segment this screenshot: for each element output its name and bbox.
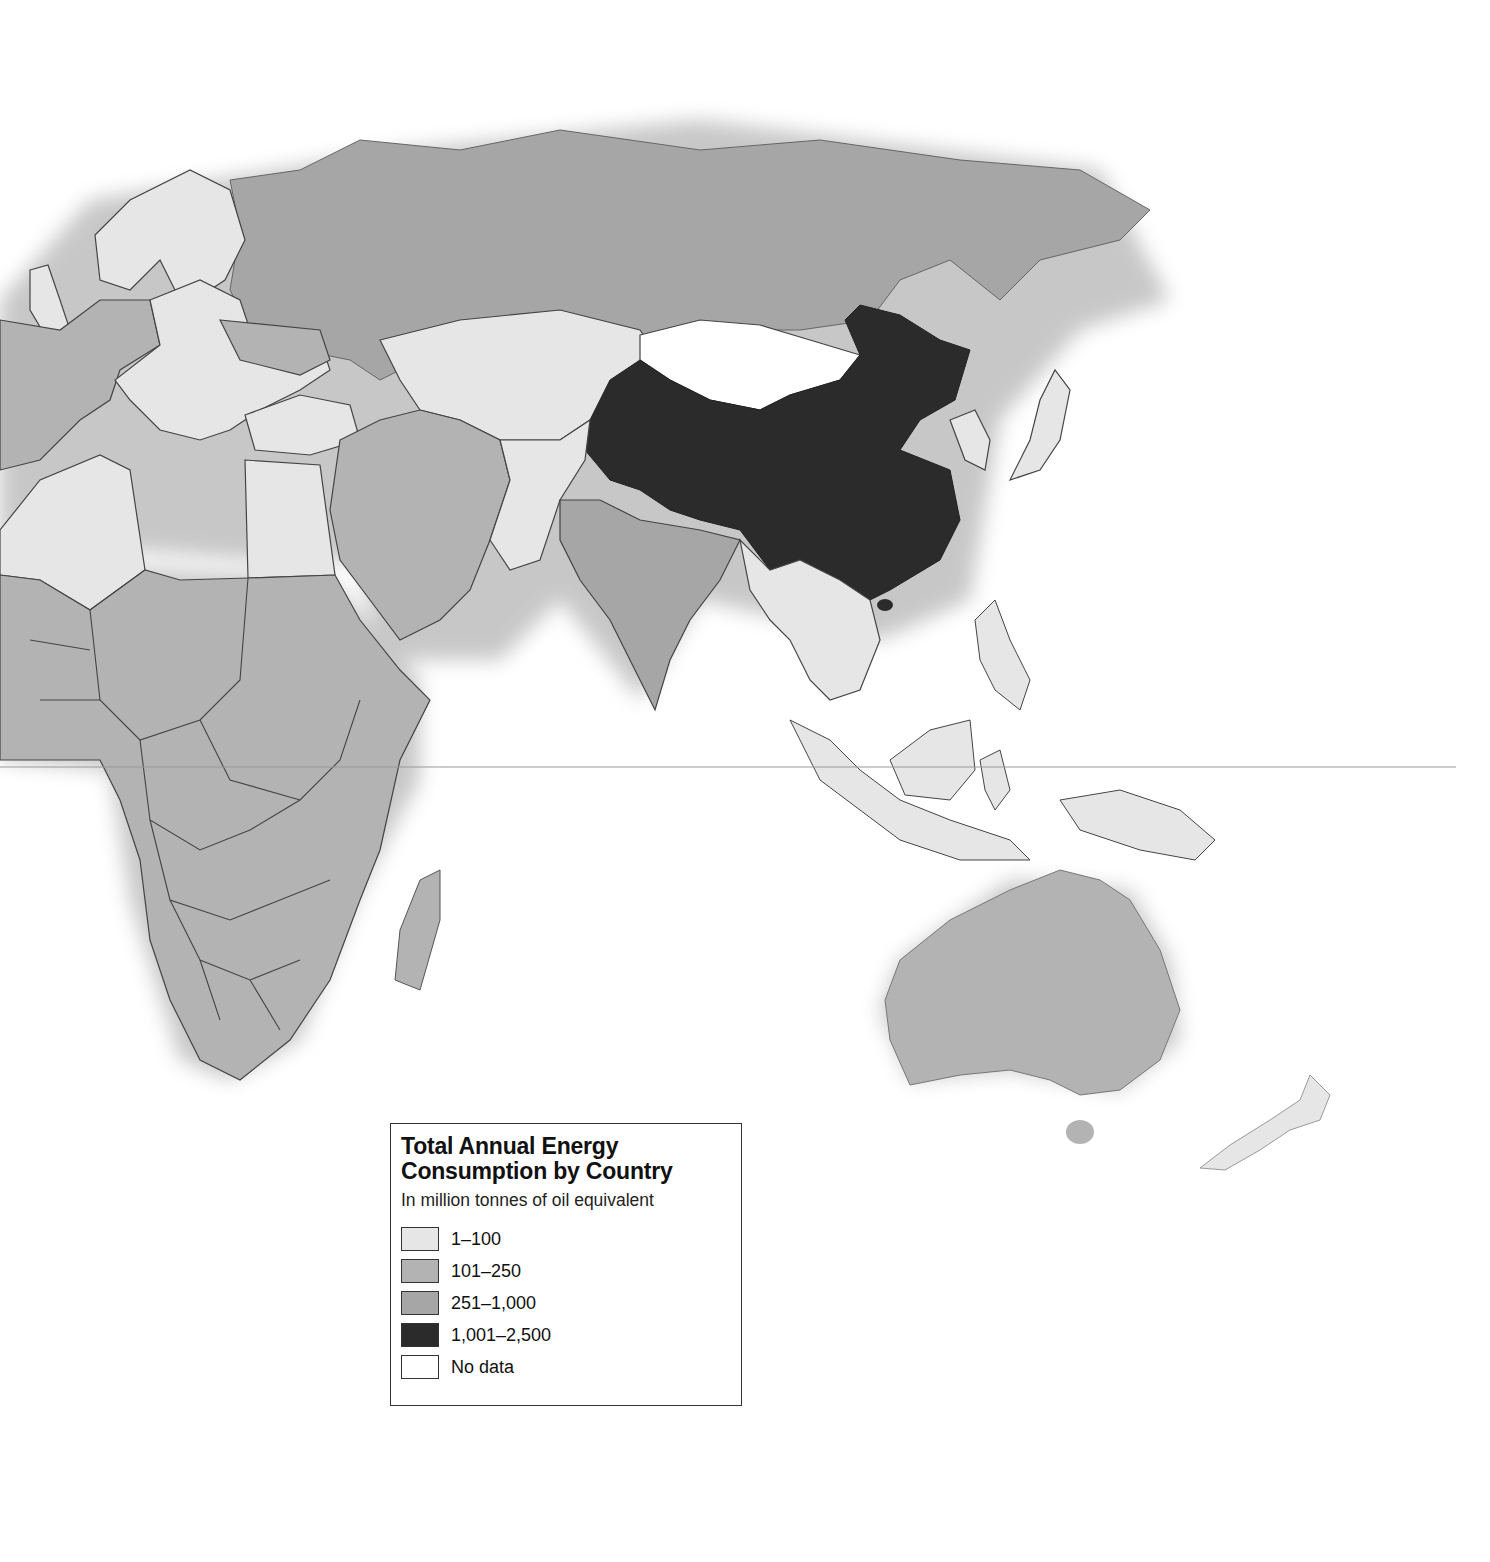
region-new-zealand bbox=[1200, 1075, 1330, 1170]
region-tasmania bbox=[1066, 1120, 1094, 1144]
legend-label: 1,001–2,500 bbox=[451, 1325, 551, 1346]
legend-swatch bbox=[401, 1323, 439, 1347]
region-egypt bbox=[245, 460, 335, 578]
region-borneo bbox=[890, 720, 975, 800]
legend-label: 251–1,000 bbox=[451, 1293, 536, 1314]
legend-title-line2: Consumption by Country bbox=[401, 1159, 731, 1184]
legend-item-1-100: 1–100 bbox=[401, 1223, 731, 1255]
choropleth-map bbox=[0, 0, 1490, 1562]
legend-subtitle: In million tonnes of oil equivalent bbox=[401, 1190, 731, 1211]
region-papua bbox=[1060, 790, 1215, 860]
legend-title-line1: Total Annual Energy bbox=[401, 1134, 731, 1159]
map-legend: Total Annual Energy Consumption by Count… bbox=[390, 1123, 742, 1406]
region-hainan bbox=[877, 599, 893, 611]
region-madagascar bbox=[395, 870, 440, 990]
legend-label: 1–100 bbox=[451, 1229, 501, 1250]
region-scandinavia bbox=[95, 170, 245, 300]
legend-label: 101–250 bbox=[451, 1261, 521, 1282]
legend-title: Total Annual Energy Consumption by Count… bbox=[401, 1134, 731, 1184]
region-sulawesi bbox=[980, 750, 1010, 810]
legend-label: No data bbox=[451, 1357, 514, 1378]
legend-item-no-data: No data bbox=[401, 1351, 731, 1383]
legend-item-101-250: 101–250 bbox=[401, 1255, 731, 1287]
legend-item-251-1000: 251–1,000 bbox=[401, 1287, 731, 1319]
legend-swatch bbox=[401, 1355, 439, 1379]
legend-swatch bbox=[401, 1259, 439, 1283]
legend-swatch bbox=[401, 1291, 439, 1315]
legend-item-1001-2500: 1,001–2,500 bbox=[401, 1319, 731, 1351]
legend-swatch bbox=[401, 1227, 439, 1251]
region-philippines bbox=[975, 600, 1030, 710]
